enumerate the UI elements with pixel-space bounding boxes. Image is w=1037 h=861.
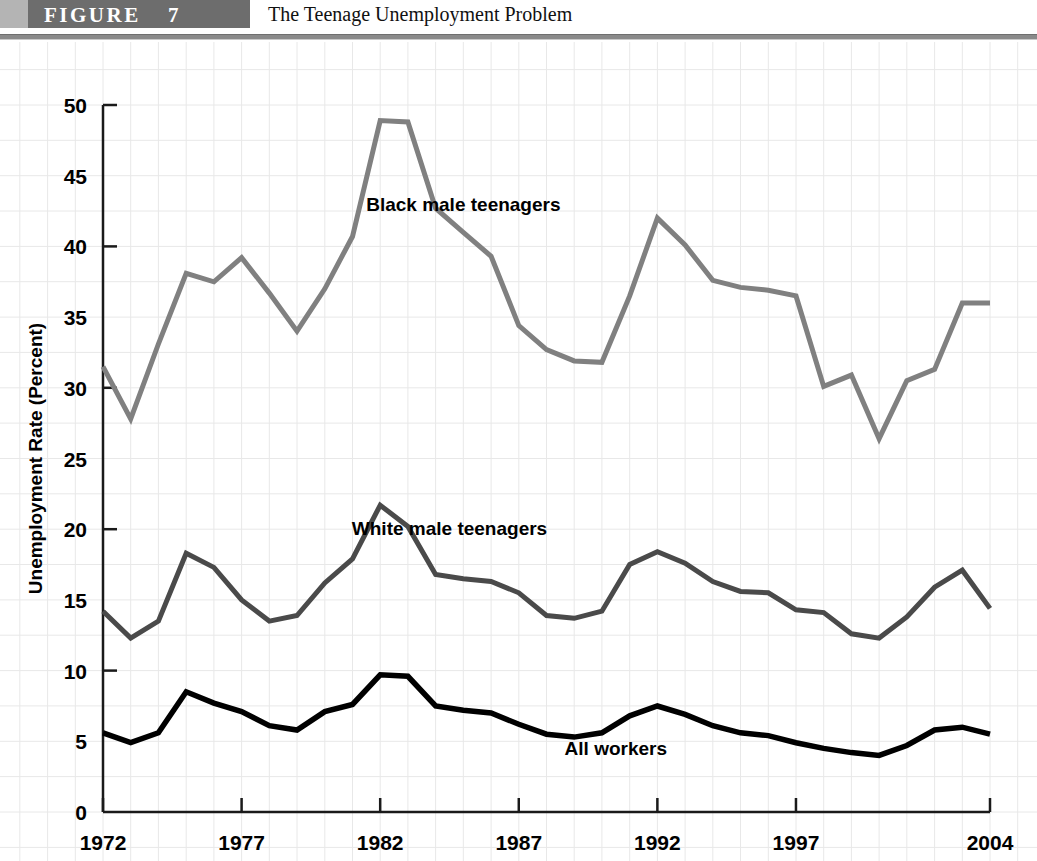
chart-container: 0510152025303540455019721977198219871992… (0, 42, 1037, 861)
x-axis-tick-label: 1982 (357, 831, 404, 854)
y-axis-tick-label: 45 (64, 165, 88, 188)
line-chart: 0510152025303540455019721977198219871992… (0, 42, 1037, 861)
chart-gridlines (0, 42, 1037, 861)
header-divider (0, 34, 1037, 40)
y-axis-tick-label: 40 (64, 235, 87, 258)
series-label-1: White male teenagers (352, 518, 547, 539)
series-label-0: Black male teenagers (366, 194, 560, 215)
y-axis-title: Unemployment Rate (Percent) (25, 323, 46, 594)
y-axis-tick-label: 35 (64, 306, 88, 329)
figure-header: FIGURE 7 The Teenage Unemployment Proble… (0, 0, 1037, 32)
y-axis-tick-label: 25 (64, 448, 88, 471)
y-axis-tick-label: 5 (75, 730, 87, 753)
x-axis-tick-label: 1997 (773, 831, 820, 854)
y-axis-tick-label: 50 (64, 94, 87, 117)
page-title: The Teenage Unemployment Problem (268, 3, 572, 26)
x-axis-tick-label: 2004 (967, 831, 1014, 854)
x-axis-tick-label: 1992 (634, 831, 681, 854)
y-axis-tick-label: 10 (64, 660, 87, 683)
x-axis-tick-label: 1977 (218, 831, 265, 854)
y-axis-tick-label: 30 (64, 377, 87, 400)
y-axis-tick-label: 15 (64, 589, 88, 612)
y-axis-tick-label: 0 (75, 801, 87, 824)
figure-number-label: 7 (168, 3, 179, 28)
figure-tag-accent-block (0, 0, 28, 28)
figure-word-label: FIGURE (44, 3, 141, 28)
series-label-2: All workers (565, 738, 667, 759)
x-axis-tick-label: 1972 (80, 831, 127, 854)
x-axis-tick-label: 1987 (495, 831, 542, 854)
y-axis-tick-label: 20 (64, 518, 87, 541)
